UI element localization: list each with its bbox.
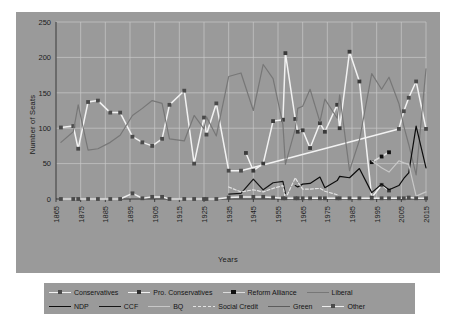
x-tick-label: 1985 (348, 206, 357, 223)
series-marker (86, 100, 90, 104)
series-marker (140, 140, 144, 144)
y-tick-label: 200 (38, 53, 51, 62)
y-tick-label: 50 (43, 159, 51, 168)
legend-item-label: Other (347, 302, 365, 311)
legend-item-conservatives[interactable]: Conservatives (49, 288, 118, 297)
legend-line (307, 292, 329, 293)
x-tick-label: 1945 (249, 206, 258, 223)
series-marker (271, 119, 275, 123)
legend-swatch-icon (128, 288, 150, 297)
legend-swatch-icon (223, 288, 245, 297)
y-tick-label: 0 (47, 195, 51, 204)
series-marker (76, 147, 80, 151)
legend-item-label: Liberal (332, 288, 353, 297)
legend-item-label: BQ (173, 302, 183, 311)
series-marker (407, 96, 411, 100)
series-marker (227, 196, 231, 200)
legend-swatch-icon (99, 302, 121, 311)
legend-item-pro-conservatives[interactable]: Pro. Conservatives (128, 288, 212, 297)
series-line (61, 64, 426, 174)
legend-swatch-icon (268, 302, 290, 311)
series-marker (140, 196, 144, 200)
x-tick-label: 1935 (225, 206, 234, 223)
series-bq (372, 161, 426, 196)
legend-row-1: ConservativesPro. ConservativesReform Al… (49, 286, 410, 298)
x-tick-label: 1865 (52, 206, 61, 223)
series-pro-conservatives (244, 50, 391, 200)
legend-item-liberal[interactable]: Liberal (307, 288, 353, 297)
series-marker (192, 197, 196, 201)
series-marker (261, 162, 265, 166)
series-marker (182, 89, 186, 93)
series-marker (118, 111, 122, 115)
legend-item-label: CCF (124, 302, 138, 311)
legend-marker (58, 290, 63, 295)
x-tick-label: 1915 (175, 206, 184, 223)
x-tick-label: 1875 (77, 206, 86, 223)
x-axis-title: Years (16, 255, 440, 264)
x-tick-label: 1995 (373, 206, 382, 223)
series-marker (414, 80, 418, 84)
x-tick-label: 1965 (299, 206, 308, 223)
legend-swatch-icon (49, 302, 71, 311)
legend-item-bq[interactable]: BQ (148, 302, 183, 311)
legend-line (148, 306, 170, 307)
legend-item-social-credit[interactable]: Social Credit (193, 302, 258, 311)
legend-item-other[interactable]: Other (322, 302, 365, 311)
legend-swatch-icon (322, 302, 344, 311)
series-marker (168, 197, 172, 201)
series-marker (284, 196, 288, 200)
series-marker (108, 197, 112, 201)
chart-legend: ConservativesPro. ConservativesReform Al… (44, 283, 415, 314)
legend-row-2: NDPCCFBQSocial CreditGreenOther (49, 300, 410, 312)
series-marker (380, 196, 384, 200)
series-marker (251, 195, 255, 199)
series-marker (168, 103, 172, 107)
series-marker (131, 191, 135, 195)
series-marker (323, 130, 327, 134)
series-marker (108, 111, 112, 115)
y-tick-label: 150 (38, 89, 51, 98)
chart-panel: 0501001502002501865187518851895190519151… (16, 12, 440, 273)
series-marker (402, 196, 406, 200)
legend-line (268, 306, 290, 307)
x-tick-label: 1895 (126, 206, 135, 223)
series-marker (380, 155, 384, 159)
series-marker (296, 196, 300, 200)
series-marker (118, 197, 122, 201)
series-marker (407, 196, 411, 200)
series-marker (402, 109, 406, 113)
series-marker (424, 196, 428, 200)
series-marker (358, 196, 362, 200)
legend-item-label: NDP (74, 302, 89, 311)
legend-item-label: Conservatives (74, 288, 118, 297)
series-marker (261, 195, 265, 199)
series-liberal (61, 64, 426, 174)
x-tick-label: 2005 (397, 206, 406, 223)
series-line (372, 161, 426, 196)
legend-item-label: Pro. Conservatives (153, 288, 212, 297)
series-marker (239, 169, 243, 173)
series-marker (387, 150, 391, 154)
legend-item-green[interactable]: Green (268, 302, 312, 311)
legend-item-label: Social Credit (218, 302, 258, 311)
series-line (229, 179, 286, 194)
series-marker (96, 197, 100, 201)
series-marker (318, 196, 322, 200)
line-chart-plot: 0501001502002501865187518851895190519151… (16, 12, 440, 273)
series-marker (387, 196, 391, 200)
series-line (61, 81, 426, 170)
series-conservatives (59, 80, 428, 173)
legend-item-reform-alliance[interactable]: Reform Alliance (223, 288, 297, 297)
series-marker (205, 197, 209, 201)
y-tick-label: 250 (38, 18, 51, 27)
series-marker (96, 99, 100, 103)
legend-item-ndp[interactable]: NDP (49, 302, 89, 311)
series-marker (86, 197, 90, 201)
series-marker (214, 102, 218, 106)
series-marker (414, 196, 418, 200)
series-marker (192, 162, 196, 166)
series-marker (202, 116, 206, 120)
legend-item-ccf[interactable]: CCF (99, 302, 138, 311)
x-tick-label: 1905 (151, 206, 160, 223)
